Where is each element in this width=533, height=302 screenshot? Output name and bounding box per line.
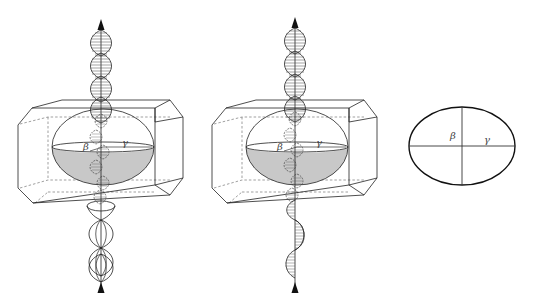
figure-b: β γ	[212, 17, 377, 293]
label-gamma-b: γ	[316, 137, 322, 148]
label-beta-c: β	[449, 130, 456, 141]
crystal-prism-a	[18, 100, 183, 203]
arrow-top-b	[292, 17, 299, 28]
label-beta-b: β	[276, 141, 283, 152]
arrow-top-a	[98, 19, 105, 30]
arrow-bottom-b	[292, 282, 299, 293]
label-gamma-a: γ	[122, 137, 128, 148]
figure-a: β γ	[18, 19, 183, 293]
figure-c-section: β γ	[409, 107, 515, 185]
label-gamma-c: γ	[484, 134, 490, 145]
label-beta-a: β	[82, 141, 89, 152]
diagram-canvas: β γ	[0, 0, 533, 302]
crystal-prism-b	[212, 100, 377, 203]
arrow-bottom-a	[98, 282, 105, 293]
